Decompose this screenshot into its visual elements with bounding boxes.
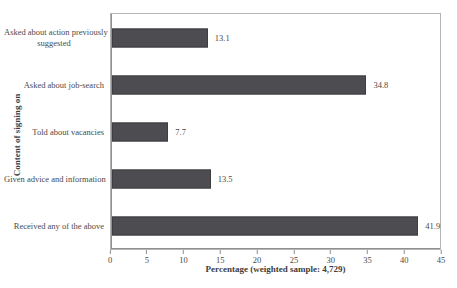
- x-tick: 15: [216, 250, 225, 265]
- bar-row: Given advice and information13.5: [111, 155, 440, 202]
- x-tick-mark: [220, 250, 221, 254]
- bar-row: Received any of the above41.9: [111, 202, 440, 249]
- bar: [112, 169, 211, 188]
- x-tick-mark: [404, 250, 405, 254]
- category-label: Asked about action previouslysuggested: [0, 27, 104, 49]
- x-tick: 0: [108, 250, 112, 265]
- category-label: Received any of the above: [0, 220, 104, 231]
- x-tick: 25: [290, 250, 299, 265]
- x-tick-mark: [330, 250, 331, 254]
- value-label: 41.9: [425, 221, 440, 231]
- plot-area: Asked about action previouslysuggested13…: [110, 13, 441, 250]
- x-tick-mark: [441, 250, 442, 254]
- bar-chart-figure: Content of signing on Asked about action…: [0, 0, 457, 288]
- value-label: 13.1: [215, 33, 230, 43]
- x-tick: 45: [437, 250, 446, 265]
- bar-row: Asked about action previouslysuggested13…: [111, 14, 440, 61]
- bar: [112, 28, 208, 47]
- value-label: 7.7: [175, 127, 186, 137]
- x-tick-mark: [110, 250, 111, 254]
- x-tick: 20: [253, 250, 262, 265]
- x-axis-title: Percentage (weighted sample: 4,729): [110, 264, 441, 274]
- category-label: Given advice and information: [0, 173, 104, 184]
- x-tick: 40: [400, 250, 409, 265]
- x-tick-mark: [146, 250, 147, 254]
- category-label: Told about vacancies: [0, 126, 104, 137]
- bar-row: Told about vacancies7.7: [111, 108, 440, 155]
- bar: [112, 75, 366, 94]
- x-tick-mark: [257, 250, 258, 254]
- bar: [112, 122, 168, 141]
- x-tick: 30: [326, 250, 335, 265]
- y-axis-line: [111, 14, 112, 249]
- x-tick: 35: [363, 250, 372, 265]
- value-label: 34.8: [373, 80, 388, 90]
- bar: [112, 216, 418, 235]
- category-label: Asked about job-search: [0, 79, 104, 90]
- x-tick-mark: [367, 250, 368, 254]
- x-tick-mark: [293, 250, 294, 254]
- bar-row: Asked about job-search34.8: [111, 61, 440, 108]
- x-tick-mark: [183, 250, 184, 254]
- x-axis-line: [111, 248, 440, 249]
- bar-rows: Asked about action previouslysuggested13…: [111, 14, 440, 249]
- value-label: 13.5: [218, 174, 233, 184]
- x-tick: 5: [145, 250, 149, 265]
- x-tick: 10: [179, 250, 188, 265]
